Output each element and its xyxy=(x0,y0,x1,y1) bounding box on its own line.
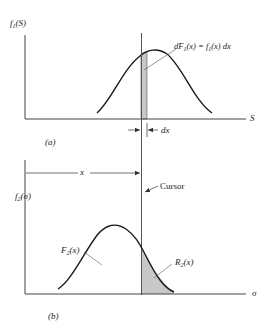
strip-annotation: dF1(x) = f1(x) dx xyxy=(174,42,231,52)
r2-leader xyxy=(154,264,172,278)
caption-a: (a) xyxy=(45,138,56,147)
x-axis-label-a: S xyxy=(250,114,255,123)
cursor-leader xyxy=(145,186,158,192)
x-distance-label: x xyxy=(80,168,84,177)
annotation-leader-a xyxy=(144,49,176,70)
cursor-label: Cursor xyxy=(160,182,185,191)
dx-label: dx xyxy=(161,126,170,135)
tail-shade xyxy=(142,249,174,294)
y-axis-label-b: f2(σ) xyxy=(15,192,31,202)
y-axis-label-a: f1(S) xyxy=(10,19,26,29)
caption-b: (b) xyxy=(48,312,59,321)
x-axis-label-b: σ xyxy=(252,289,256,298)
r2-label: R2(x) xyxy=(175,258,194,268)
panel-b xyxy=(25,160,246,294)
stress-strength-diagram: f1(S) S dF1(x) = f1(x) dx dx (a) x Curso… xyxy=(0,0,271,331)
f2-label: F2(x) xyxy=(61,246,80,256)
f2-leader xyxy=(84,252,102,265)
pdf-curve-a xyxy=(97,50,212,113)
